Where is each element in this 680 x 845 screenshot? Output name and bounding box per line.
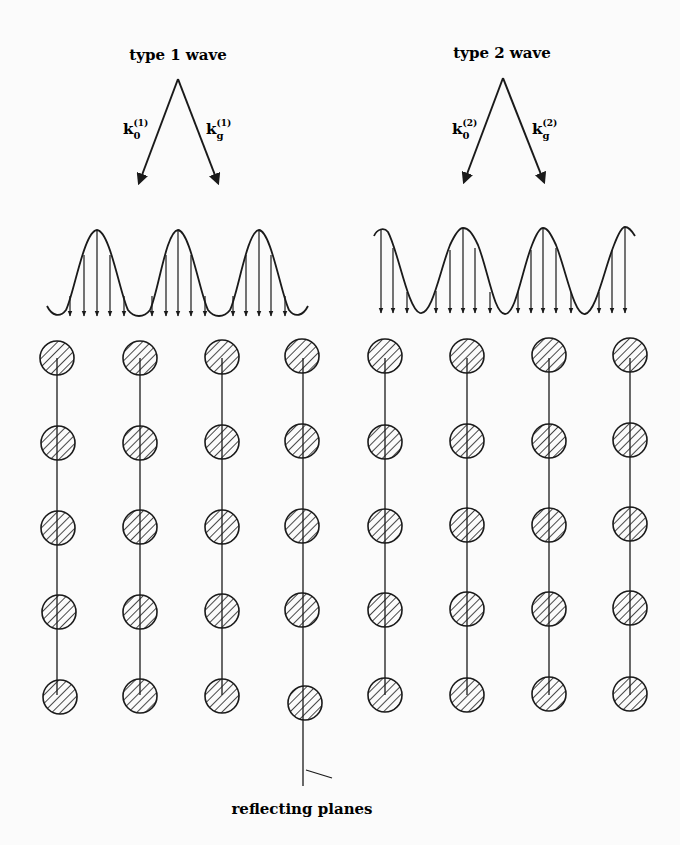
- atom: [285, 339, 319, 373]
- kg-type2-label: kg(2): [532, 118, 557, 141]
- reflecting-planes-caption: reflecting planes: [231, 800, 372, 818]
- type1-wave-title: type 1 wave: [129, 46, 226, 64]
- atom: [41, 426, 75, 460]
- atom: [205, 594, 239, 628]
- atom: [43, 680, 77, 714]
- atom: [613, 677, 647, 711]
- atom: [205, 510, 239, 544]
- atom: [532, 592, 566, 626]
- atom: [123, 679, 157, 713]
- atom: [613, 591, 647, 625]
- atom: [368, 339, 402, 373]
- type2-intensity-curve: [374, 227, 635, 314]
- atom: [205, 679, 239, 713]
- type1-field-arrows: [70, 230, 285, 316]
- atom: [368, 593, 402, 627]
- atom: [123, 341, 157, 375]
- k0-type1-arrow: [139, 79, 178, 183]
- atom: [532, 338, 566, 372]
- atom: [288, 686, 322, 720]
- atom: [450, 424, 484, 458]
- atom: [205, 340, 239, 374]
- type1-wave-group: type 1 wave k0(1) kg(1): [123, 46, 231, 183]
- atom: [532, 677, 566, 711]
- type2-standing-wave: [374, 227, 635, 314]
- atom: [368, 425, 402, 459]
- k0-type2-label: k0(2): [452, 118, 477, 141]
- atom: [123, 426, 157, 460]
- atom: [123, 510, 157, 544]
- type2-field-arrows: [381, 228, 625, 313]
- type2-wave-group: type 2 wave k0(2) kg(2): [452, 44, 557, 182]
- atom: [613, 423, 647, 457]
- atom: [123, 595, 157, 629]
- atom: [613, 507, 647, 541]
- atom: [450, 592, 484, 626]
- atom: [532, 424, 566, 458]
- k0-type1-label: k0(1): [123, 118, 148, 141]
- atom: [285, 424, 319, 458]
- atom: [42, 595, 76, 629]
- atom-lattice: [40, 338, 647, 720]
- atom: [205, 425, 239, 459]
- caption-pointer: [306, 770, 332, 778]
- atom: [41, 511, 75, 545]
- atom: [285, 509, 319, 543]
- kg-type1-label: kg(1): [206, 118, 231, 141]
- atom: [450, 339, 484, 373]
- atom: [532, 508, 566, 542]
- k0-type2-arrow: [464, 78, 503, 182]
- atom: [450, 508, 484, 542]
- atom: [368, 509, 402, 543]
- atom: [285, 593, 319, 627]
- atom: [613, 338, 647, 372]
- atom: [368, 678, 402, 712]
- type2-wave-title: type 2 wave: [453, 44, 550, 62]
- atom: [40, 341, 74, 375]
- type1-standing-wave: [47, 230, 308, 316]
- atom: [450, 678, 484, 712]
- reflecting-planes: [57, 358, 630, 786]
- standing-wave-diagram: type 1 wave k0(1) kg(1) type 2 wave k0(2…: [0, 0, 680, 845]
